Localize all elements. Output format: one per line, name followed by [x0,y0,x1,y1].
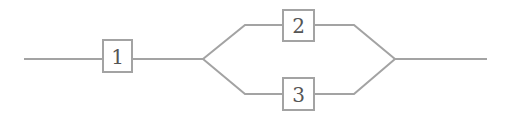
reliability-block-diagram: 1 2 3 [0,0,507,115]
upper-branch-out [314,25,395,59]
block-1-label: 1 [111,45,124,69]
block-3-label: 3 [292,83,305,107]
block-2-label: 2 [292,14,305,38]
upper-branch-in [203,25,283,59]
lower-branch-in [203,59,283,94]
block-1: 1 [103,40,132,72]
lower-branch-out [314,59,395,94]
block-2: 2 [283,10,314,41]
block-3: 3 [283,78,314,110]
